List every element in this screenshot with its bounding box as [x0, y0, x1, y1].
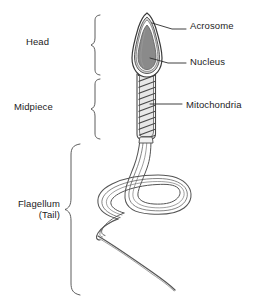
- brace-flagellum: [65, 144, 80, 295]
- brace-midpiece: [91, 79, 100, 139]
- label-mitochondria: Mitochondria: [186, 99, 242, 110]
- midpiece: [137, 69, 156, 143]
- flagellum-tail: [96, 139, 191, 291]
- label-acrosome: Acrosome: [190, 20, 234, 31]
- label-nucleus: Nucleus: [190, 56, 225, 67]
- sperm-head: [132, 13, 162, 77]
- label-midpiece: Midpiece: [14, 101, 53, 112]
- brace-head: [91, 15, 100, 75]
- label-flagellum-line1: Flagellum: [4, 198, 60, 209]
- label-flagellum: Flagellum (Tail): [4, 198, 60, 220]
- label-flagellum-line2: (Tail): [4, 209, 60, 220]
- label-head: Head: [26, 36, 49, 47]
- leader-acrosome: [152, 23, 186, 29]
- diagram-canvas: Head Midpiece Flagellum (Tail) Acrosome …: [0, 0, 263, 306]
